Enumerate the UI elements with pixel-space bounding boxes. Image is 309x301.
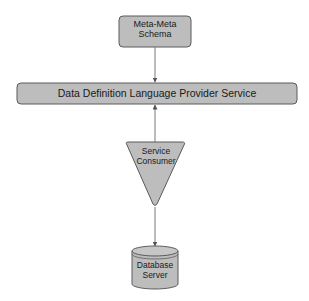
meta-schema-line2: Schema [119, 29, 191, 39]
service-consumer-line2: Consumer [126, 157, 186, 167]
service-consumer-label: Service Consumer [126, 147, 186, 167]
meta-schema-label: Meta-Meta Schema [119, 19, 191, 40]
ddl-provider-label: Data Definition Language Provider Servic… [17, 87, 297, 99]
meta-schema-line1: Meta-Meta [119, 19, 191, 29]
database-server-line2: Server [132, 271, 178, 281]
database-server-label: Database Server [132, 261, 178, 281]
